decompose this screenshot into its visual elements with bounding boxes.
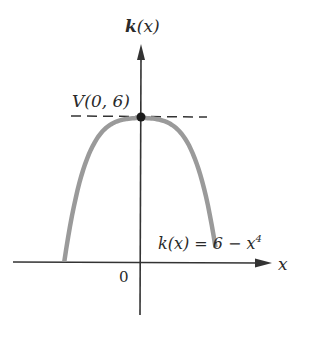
y-axis-label: k(x) — [125, 16, 160, 36]
x-axis-label: x — [278, 254, 288, 274]
vertex-label: V(0, 6) — [72, 91, 130, 111]
y-axis-arrow-icon — [137, 44, 145, 60]
y-axis — [140, 58, 141, 315]
graph-canvas: k(x) V(0, 6) k(x) = 6 − x4 x 0 — [0, 0, 311, 337]
x-axis — [13, 262, 258, 263]
x-axis-arrow-icon — [255, 259, 272, 268]
function-label: k(x) = 6 − x4 — [158, 233, 262, 253]
origin-label: 0 — [119, 268, 129, 286]
vertex-point — [137, 113, 146, 122]
